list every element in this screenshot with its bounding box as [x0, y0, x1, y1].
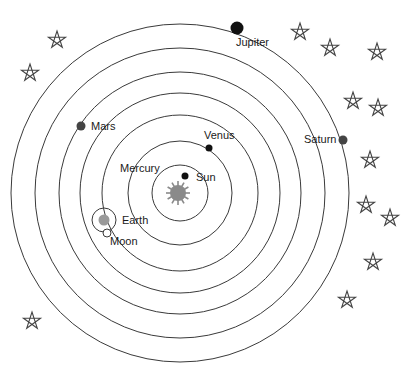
- star-icon: [23, 312, 40, 328]
- star-icon: [21, 64, 38, 80]
- star-icon: [369, 99, 386, 115]
- star-icon: [48, 31, 65, 47]
- planet-mercury: [182, 173, 189, 180]
- planet-saturn: [339, 136, 348, 145]
- sun-icon: [166, 181, 190, 205]
- planet-label-venus: Venus: [204, 129, 235, 141]
- planet-venus: [206, 145, 213, 152]
- solar-system-diagram: Sun MercuryVenusEarthMarsJupiterSaturn M…: [0, 0, 415, 375]
- star-icon: [321, 39, 338, 55]
- star-icon: [338, 291, 355, 307]
- sun-label: Sun: [196, 171, 216, 183]
- planet-label-earth: Earth: [122, 214, 148, 226]
- planet-label-mercury: Mercury: [120, 162, 160, 174]
- star-icon: [368, 43, 385, 59]
- planet-label-mars: Mars: [91, 120, 116, 132]
- star-icon: [291, 23, 308, 39]
- star-icon: [344, 92, 361, 108]
- star-icon: [361, 151, 378, 167]
- planet-mars: [77, 122, 86, 131]
- planet-label-jupiter: Jupiter: [236, 36, 269, 48]
- star-icon: [381, 209, 398, 225]
- planet-earth: [99, 215, 110, 226]
- planet-jupiter: [231, 22, 244, 35]
- moon-label: Moon: [110, 235, 138, 247]
- star-icon: [364, 253, 381, 269]
- star-icon: [357, 196, 374, 212]
- sun-disc: [170, 185, 186, 201]
- planet-label-saturn: Saturn: [304, 133, 336, 145]
